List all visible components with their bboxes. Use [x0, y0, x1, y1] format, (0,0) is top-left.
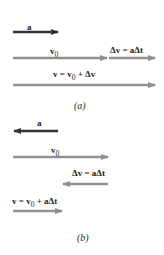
b-delta-v-label: Δv = aΔt	[72, 168, 105, 178]
a-delta-v-label: Δv = aΔt	[110, 45, 143, 55]
a-caption: (a)	[74, 101, 86, 111]
a-v-label: v = v0 + Δv	[53, 69, 95, 83]
b-v-label: v = v0 + aΔt	[12, 196, 57, 210]
b-caption: (b)	[77, 233, 89, 243]
b-acceleration-label: a	[37, 118, 42, 128]
vector-diagram	[0, 0, 164, 255]
a-v0-label: v0	[50, 46, 58, 60]
a-acceleration-label: a	[27, 22, 32, 32]
b-v0-label: v0	[51, 145, 59, 159]
